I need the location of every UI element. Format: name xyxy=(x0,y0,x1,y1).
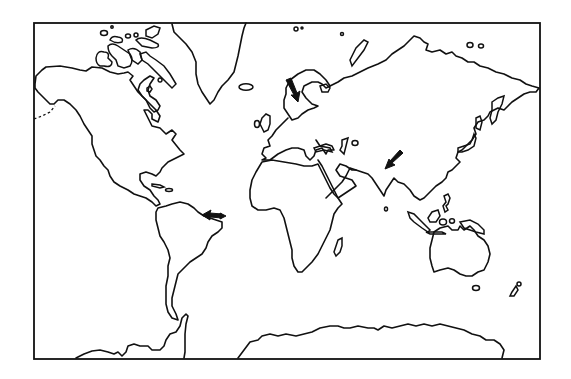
japan xyxy=(458,134,476,152)
arctic-island-6 xyxy=(136,38,158,48)
arctic-island-8 xyxy=(101,31,108,36)
world-map-figure xyxy=(0,0,571,379)
bering-dateline-dashed xyxy=(34,106,55,119)
sumatra xyxy=(408,212,430,232)
aral-sea xyxy=(352,141,358,146)
hispaniola xyxy=(166,189,173,192)
cuba xyxy=(152,184,164,188)
arctic-island-10 xyxy=(134,33,138,37)
novaya-zemlya xyxy=(350,40,368,66)
south-america-coast xyxy=(156,202,222,320)
new-zealand-south xyxy=(510,286,518,296)
ireland xyxy=(255,121,260,128)
arctic-island-5 xyxy=(110,36,123,42)
great-britain xyxy=(260,114,270,132)
caspian-sea xyxy=(340,138,348,154)
arctic-island-11 xyxy=(111,26,113,28)
arctic-island-3 xyxy=(128,48,142,64)
bay-island xyxy=(158,78,162,82)
europe-coast xyxy=(262,118,334,160)
new-siberian-islands-1 xyxy=(467,43,473,48)
new-zealand-north xyxy=(517,282,521,286)
asia-coast xyxy=(326,36,539,200)
hudson-island xyxy=(147,86,152,92)
sulawesi xyxy=(440,219,447,225)
arctic-island-4 xyxy=(140,52,176,88)
greenland-coast xyxy=(172,23,246,104)
antarctica-coast xyxy=(238,324,504,358)
arctic-island-9 xyxy=(126,34,131,38)
java xyxy=(426,232,446,234)
arrow-scandinavia xyxy=(286,78,300,102)
hudson-bay-coast xyxy=(138,76,160,112)
svalbard-2 xyxy=(301,27,303,29)
madagascar xyxy=(334,238,342,256)
new-siberian-islands-2 xyxy=(479,44,484,48)
map-frame xyxy=(34,23,540,359)
iceland xyxy=(239,84,253,90)
borneo xyxy=(428,210,440,222)
halmahera xyxy=(450,219,455,223)
arrow-india xyxy=(385,150,403,169)
sri-lanka xyxy=(385,207,388,211)
arctic-island-7 xyxy=(146,26,160,38)
franz-josef xyxy=(341,33,344,36)
arabia-coast xyxy=(318,160,356,198)
taiwan-philippines xyxy=(443,194,450,212)
tasmania xyxy=(473,286,480,291)
antarctic-peninsula-coast xyxy=(76,314,188,358)
world-map-svg xyxy=(0,0,571,379)
svalbard-1 xyxy=(294,27,298,31)
